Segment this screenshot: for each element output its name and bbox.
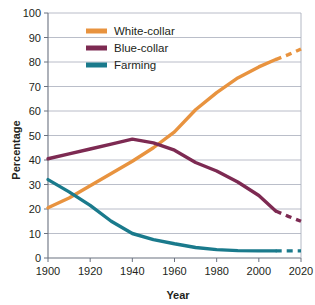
y-axis-title: Percentage — [10, 120, 22, 179]
y-tick-label: 90 — [29, 32, 41, 44]
x-axis-title: Year — [166, 289, 190, 301]
x-tick-label: 1960 — [162, 265, 186, 277]
y-tick-label: 60 — [29, 105, 41, 117]
y-tick-label: 80 — [29, 56, 41, 68]
x-tick-label: 2020 — [289, 265, 313, 277]
y-tick-label: 100 — [23, 7, 41, 19]
x-tick-label: 1920 — [78, 265, 102, 277]
chart-container: 0102030405060708090100 19001920194019601… — [0, 0, 315, 305]
y-tick-label: 0 — [35, 252, 41, 264]
y-tick-label: 70 — [29, 81, 41, 93]
legend-label-white-collar: White-collar — [114, 25, 175, 37]
x-tick-label: 1940 — [120, 265, 144, 277]
y-tick-label: 40 — [29, 154, 41, 166]
y-tick-label: 10 — [29, 228, 41, 240]
y-tick-label: 50 — [29, 130, 41, 142]
legend-label-blue-collar: Blue-collar — [114, 42, 168, 54]
x-tick-label: 1980 — [204, 265, 228, 277]
x-tick-label: 2000 — [247, 265, 271, 277]
occupation-line-chart: 0102030405060708090100 19001920194019601… — [0, 0, 315, 305]
x-tick-label: 1900 — [36, 265, 60, 277]
legend-label-farming: Farming — [114, 59, 156, 71]
y-tick-label: 20 — [29, 203, 41, 215]
y-tick-label: 30 — [29, 179, 41, 191]
